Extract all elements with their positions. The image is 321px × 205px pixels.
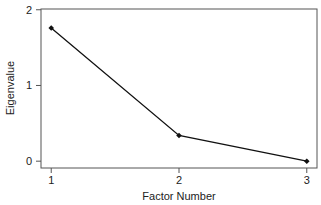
- scree-plot: 012 123 Factor Number Eigenvalue: [0, 0, 321, 205]
- plot-area: [41, 9, 317, 168]
- y-tick-label: 0: [26, 155, 32, 167]
- x-tick-label: 1: [48, 174, 54, 186]
- y-axis: 012: [26, 4, 41, 167]
- x-axis: 123: [48, 168, 310, 186]
- x-tick-label: 2: [176, 174, 182, 186]
- x-axis-title: Factor Number: [142, 190, 216, 202]
- y-tick-label: 2: [26, 4, 32, 16]
- y-axis-title: Eigenvalue: [4, 61, 16, 115]
- x-tick-label: 3: [304, 174, 310, 186]
- y-tick-label: 1: [26, 79, 32, 91]
